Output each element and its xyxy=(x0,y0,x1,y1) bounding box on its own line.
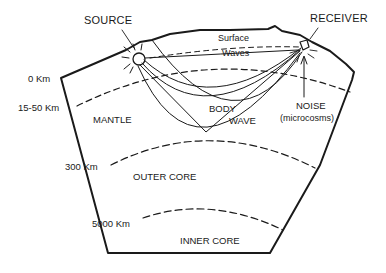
source-label: SOURCE xyxy=(84,15,132,26)
surface-waves-label-2: Waves xyxy=(222,49,249,58)
receiver-point xyxy=(300,40,309,50)
surface-waves-label-1: Surface xyxy=(218,34,249,43)
noise-sublabel: (microcosms) xyxy=(280,114,334,123)
layer-outer-core-label: OUTER CORE xyxy=(133,172,196,182)
body-wave-label-1: BODY xyxy=(209,104,236,114)
receiver-label: RECEIVER xyxy=(310,13,368,24)
body-wave-path-3 xyxy=(140,51,300,132)
body-wave-path-4 xyxy=(138,53,300,127)
layer-mantle-label: MANTLE xyxy=(93,115,132,125)
source-point xyxy=(133,53,145,65)
noise-label: NOISE xyxy=(296,101,326,111)
depth-300km-label: 300 Km xyxy=(65,162,98,172)
body-wave-label-2: WAVE xyxy=(229,116,256,126)
diagram-graphics xyxy=(0,0,386,273)
depth-0km-label: 0 Km xyxy=(28,74,50,84)
depth-5000km-label: 5000 Km xyxy=(92,219,130,229)
mantle-core-boundary xyxy=(111,141,315,168)
depth-15-50km-label: 15-50 Km xyxy=(18,103,59,113)
inner-core-boundary xyxy=(143,209,283,230)
layer-inner-core-label: INNER CORE xyxy=(180,236,240,246)
earth-cross-section-diagram: SOURCE RECEIVER Surface Waves BODY WAVE … xyxy=(0,0,386,273)
receiver-noise-icon xyxy=(297,50,317,62)
